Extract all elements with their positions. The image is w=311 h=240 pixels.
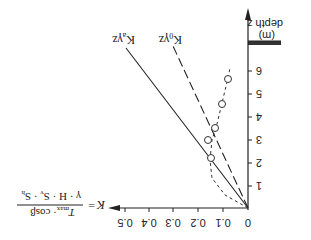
y-tick-labels: 1 2 3 4 5 6 — [256, 65, 262, 192]
k0-line — [173, 46, 248, 208]
equals-sign: = — [88, 198, 95, 212]
chart: 0 0.1 0.2 0.3 0.4 0.5 1 2 3 4 5 6 depth … — [0, 0, 311, 240]
k-symbol: K — [96, 198, 106, 212]
depth-unit-text: (m) — [259, 30, 276, 42]
data-point — [205, 137, 212, 144]
x-tick-0.3: 0.3 — [165, 217, 180, 229]
x-tick-0.4: 0.4 — [141, 217, 156, 229]
data-point — [225, 76, 232, 83]
k-formula: K = Tmax· cosβ γ · H · Sv · Sh — [17, 189, 106, 219]
x-tick-0.5: 0.5 — [117, 217, 132, 229]
x-tick-labels: 0 0.1 0.2 0.3 0.4 0.5 — [117, 217, 251, 229]
x-ticks — [125, 208, 223, 212]
x-tick-0.2: 0.2 — [190, 217, 205, 229]
y-tick-1: 1 — [256, 180, 262, 192]
y-tick-2: 2 — [256, 157, 262, 169]
measured-curve — [210, 68, 248, 208]
y-tick-4: 4 — [256, 111, 262, 123]
x-tick-0.1: 0.1 — [215, 217, 230, 229]
k-axis-arrow-icon — [108, 205, 120, 211]
y-tick-6: 6 — [256, 65, 262, 77]
svg-text:K0γz: K0γz — [159, 31, 182, 47]
data-point — [219, 101, 226, 108]
y-tick-3: 3 — [256, 134, 262, 146]
svg-text:Kaγz: Kaγz — [112, 31, 135, 47]
depth-label: depth z (m) — [247, 18, 283, 42]
k0-label: K0γz — [159, 31, 182, 47]
ka-label: Kaγz — [112, 31, 135, 47]
depth-label-text: depth z — [247, 18, 283, 30]
svg-text:γ · H · Sv · Sh: γ · H · Sv · Sh — [21, 189, 82, 203]
data-point — [208, 155, 215, 162]
x-tick-0: 0 — [245, 217, 251, 229]
svg-text:Tmax· cosβ: Tmax· cosβ — [30, 205, 75, 219]
data-point — [212, 125, 219, 132]
y-tick-5: 5 — [256, 88, 262, 100]
y-ticks — [248, 71, 252, 186]
